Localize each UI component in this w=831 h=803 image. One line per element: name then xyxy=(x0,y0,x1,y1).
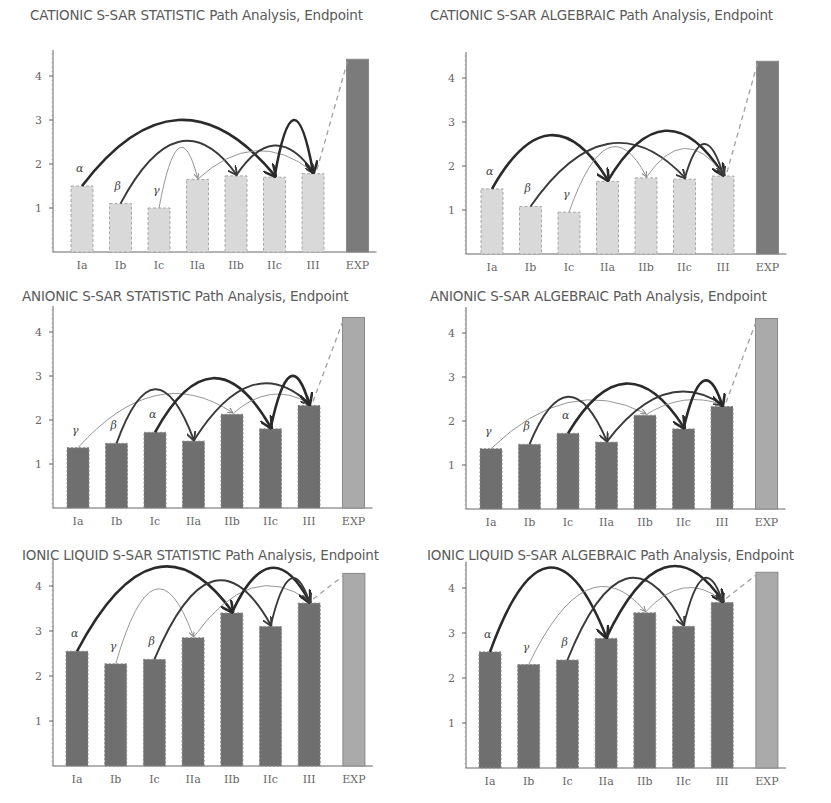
path-label: β xyxy=(524,182,531,195)
x-tick-label: Ic xyxy=(562,775,573,788)
path-arrow xyxy=(646,148,723,178)
x-tick-label: IIb xyxy=(224,773,240,786)
x-tick-label: III xyxy=(306,259,319,272)
x-tick-label: Ic xyxy=(563,516,574,529)
bar-ia xyxy=(66,651,88,766)
x-tick-label: IIc xyxy=(677,261,692,274)
bar-ia xyxy=(481,189,503,254)
path-label: α xyxy=(486,165,494,178)
bar-exp xyxy=(343,317,365,508)
dashed-link-line xyxy=(727,63,758,172)
path-arrow xyxy=(155,378,271,432)
path-arrow xyxy=(193,586,309,638)
chart-plot: 1234IaIbIcIIaIIbIIcIIIEXPαγβ xyxy=(0,540,415,803)
x-tick-label: EXP xyxy=(342,515,366,528)
y-tick-label: 2 xyxy=(448,415,455,428)
chart-panel-ionic-liquid-algebraic: IONIC LIQUID S-SAR ALGEBRAIC Path Analys… xyxy=(415,540,830,803)
path-label: α xyxy=(76,162,84,175)
chart-panel-ionic-liquid-statistic: IONIC LIQUID S-SAR STATISTIC Path Analys… xyxy=(0,540,415,803)
path-label: γ xyxy=(485,425,492,438)
path-arrow xyxy=(606,566,722,638)
y-tick-label: 3 xyxy=(35,114,42,127)
path-arrow xyxy=(154,580,270,659)
path-arrow xyxy=(232,394,309,414)
x-tick-label: Ib xyxy=(525,261,536,274)
chart-plot: 1234IaIbIcIIaIIbIIcIIIEXPγβα xyxy=(415,280,831,540)
dashed-link-line xyxy=(726,574,757,598)
y-tick-label: 2 xyxy=(35,414,42,427)
y-tick-label: 4 xyxy=(448,582,455,595)
bar-ib xyxy=(518,665,540,769)
bar-ia xyxy=(480,449,502,509)
path-label: β xyxy=(560,636,567,649)
bar-ic xyxy=(148,208,170,252)
x-tick-label: IIa xyxy=(185,773,201,786)
bar-iii xyxy=(712,176,734,254)
y-tick-label: 4 xyxy=(35,70,42,83)
bar-iia xyxy=(596,442,618,509)
bar-ia xyxy=(67,448,89,508)
x-tick-label: EXP xyxy=(755,516,779,529)
x-tick-label: IIc xyxy=(263,515,278,528)
y-tick-label: 1 xyxy=(35,458,42,471)
y-tick-label: 1 xyxy=(448,717,455,730)
bar-ic xyxy=(144,432,166,508)
x-tick-label: Ia xyxy=(485,775,496,788)
bar-exp xyxy=(756,572,778,768)
path-label: γ xyxy=(110,640,117,653)
path-arrow xyxy=(567,578,683,660)
x-tick-label: IIa xyxy=(190,259,206,272)
path-label: γ xyxy=(72,424,79,437)
path-label: β xyxy=(147,635,154,648)
y-tick-label: 4 xyxy=(448,327,455,340)
x-tick-label: Ic xyxy=(149,773,160,786)
x-tick-label: IIa xyxy=(598,775,614,788)
bar-iib xyxy=(634,415,656,509)
x-tick-label: IIa xyxy=(599,516,615,529)
chart-panel-cationic-statistic: CATIONIC S-SAR STATISTIC Path Analysis, … xyxy=(0,0,415,280)
x-tick-label: Ia xyxy=(72,773,83,786)
x-tick-label: Ib xyxy=(111,515,122,528)
x-tick-label: IIb xyxy=(224,515,240,528)
x-tick-label: Ic xyxy=(154,259,165,272)
y-tick-label: 1 xyxy=(448,204,455,217)
chart-panel-cationic-algebraic: CATIONIC S-SAR ALGEBRAIC Path Analysis, … xyxy=(415,0,830,280)
bar-ib xyxy=(519,444,541,509)
x-tick-label: III xyxy=(302,515,315,528)
x-tick-label: Ia xyxy=(486,516,497,529)
x-tick-label: Ic xyxy=(564,261,575,274)
path-arrow xyxy=(275,120,314,177)
y-tick-label: 4 xyxy=(448,72,455,85)
x-tick-label: EXP xyxy=(342,773,366,786)
bar-iib xyxy=(221,414,243,508)
chart-panel-anionic-statistic: ANIONIC S-SAR STATISTIC Path Analysis, E… xyxy=(0,280,415,540)
y-tick-label: 2 xyxy=(35,158,42,171)
bar-exp xyxy=(343,573,365,766)
bar-ib xyxy=(520,206,542,254)
x-tick-label: Ic xyxy=(150,515,161,528)
path-arrow xyxy=(116,589,193,664)
x-tick-label: EXP xyxy=(755,775,779,788)
x-tick-label: EXP xyxy=(756,261,780,274)
x-tick-label: Ib xyxy=(524,516,535,529)
bar-iib xyxy=(225,176,247,252)
bar-iib xyxy=(634,613,656,768)
x-tick-label: IIc xyxy=(267,259,282,272)
dashed-link-line xyxy=(726,320,757,402)
path-label: β xyxy=(110,419,117,432)
x-tick-label: Ia xyxy=(73,515,84,528)
path-label: α xyxy=(562,409,570,422)
x-tick-label: IIc xyxy=(676,516,691,529)
y-tick-label: 2 xyxy=(448,672,455,685)
y-tick-label: 2 xyxy=(35,670,42,683)
bar-iii xyxy=(298,603,320,766)
x-tick-label: IIa xyxy=(186,515,202,528)
bar-exp xyxy=(756,318,778,509)
y-tick-label: 3 xyxy=(448,116,455,129)
bar-iii xyxy=(711,406,733,509)
bar-iic xyxy=(264,177,286,252)
path-label: α xyxy=(484,628,492,641)
x-tick-label: IIb xyxy=(637,775,653,788)
bar-ic xyxy=(556,660,578,768)
bar-iib xyxy=(221,613,243,766)
